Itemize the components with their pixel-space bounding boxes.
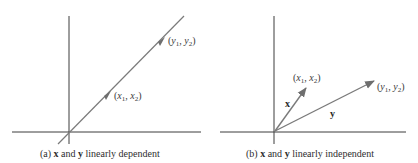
panel-a-caption: (a) x and y linearly dependent — [40, 149, 160, 159]
vector-figure — [0, 0, 418, 163]
panel-b-vector-y-name: y — [330, 109, 335, 119]
panel-a-point-y-label: (y1, y2) — [168, 36, 196, 48]
panel-a-arrow-x — [104, 91, 111, 100]
panel-b-vector-x-name: x — [285, 99, 290, 109]
panel-b-point-y-label: (y1, y2) — [377, 82, 405, 94]
panel-b-vector-x — [275, 88, 306, 131]
panel-b-caption: (b) x and y linearly independent — [246, 149, 374, 159]
panel-a-point-x-label: (x1, x2) — [114, 91, 142, 103]
panel-b-point-x-label: (x1, x2) — [293, 73, 321, 85]
panel-a-span-line — [58, 16, 184, 144]
